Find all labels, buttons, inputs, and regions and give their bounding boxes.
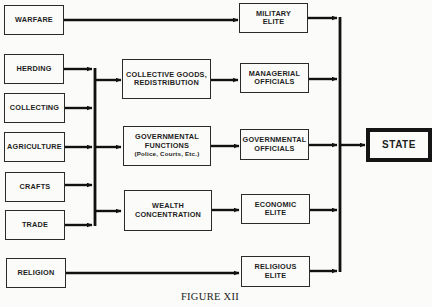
label-collecting: COLLECTING — [10, 104, 59, 113]
label-wealth-2: CONCENTRATION — [135, 211, 201, 220]
box-military-elite: MILITARYELITE — [239, 3, 308, 33]
label-collective-goods-2: REDISTRIBUTION — [126, 79, 207, 88]
label-warfare: WARFARE — [15, 16, 53, 25]
label-crafts: CRAFTS — [20, 183, 51, 192]
box-governmental-officials: GOVERNMENTALOFFICIALS — [240, 129, 309, 160]
label-religion: RELIGION — [18, 269, 55, 278]
box-agriculture: AGRICULTURE — [4, 132, 65, 162]
label-economic-2: ELITE — [255, 209, 297, 218]
box-religion: RELIGION — [6, 258, 66, 288]
label-agriculture: AGRICULTURE — [7, 143, 62, 152]
label-managerial-2: OFFICIALS — [249, 78, 300, 87]
label-military-2: ELITE — [256, 18, 291, 27]
label-herding: HERDING — [16, 65, 51, 74]
box-trade: TRADE — [5, 210, 65, 240]
box-crafts: CRAFTS — [5, 172, 65, 202]
box-collecting: COLLECTING — [4, 93, 65, 123]
label-govofficials-2: OFFICIALS — [243, 145, 307, 154]
box-herding: HERDING — [4, 54, 64, 84]
box-governmental-functions: GOVERNMENTALFUNCTIONS(Police, Courts, Et… — [123, 126, 211, 166]
label-governmental-functions-note: (Police, Courts, Etc.) — [135, 150, 200, 159]
label-governmental-functions-2: FUNCTIONS — [135, 142, 200, 151]
label-state: STATE — [382, 141, 416, 150]
box-economic-elite: ECONOMICELITE — [241, 194, 310, 224]
box-warfare: WARFARE — [4, 5, 64, 35]
box-state: STATE — [366, 128, 432, 162]
label-trade: TRADE — [22, 221, 48, 230]
box-collective-goods: COLLECTIVE GOODS,REDISTRIBUTION — [122, 59, 211, 99]
box-religious-elite: RELIGIOUSELITE — [241, 256, 310, 287]
label-religious-2: ELITE — [255, 272, 297, 281]
box-wealth-concentration: WEALTHCONCENTRATION — [124, 190, 212, 231]
box-managerial-officials: MANAGERIALOFFICIALS — [240, 63, 309, 93]
figure-caption: FIGURE XII — [0, 291, 420, 302]
